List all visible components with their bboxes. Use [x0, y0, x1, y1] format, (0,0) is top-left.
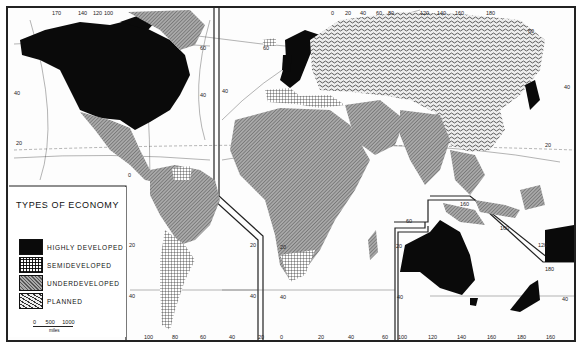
- lon-label: 180: [486, 10, 495, 16]
- lat-label: 20: [250, 242, 256, 248]
- lon-label: 120: [420, 10, 429, 16]
- legend-item-semideveloped: SEMIDEVELOPED: [19, 257, 112, 273]
- lon-label: 120: [93, 10, 102, 16]
- australia: [400, 220, 475, 295]
- lon-label: 120: [428, 334, 437, 340]
- lon-label: 20: [318, 334, 324, 340]
- lon-label: 140: [78, 10, 87, 16]
- lon-label: 140: [437, 10, 446, 16]
- lon-label: 100: [104, 10, 113, 16]
- lat-label: 20: [545, 142, 551, 148]
- lon-label: 60: [376, 10, 382, 16]
- lat-label: 40: [200, 92, 206, 98]
- lat-label: 20: [129, 242, 135, 248]
- lat-label: 40: [129, 293, 135, 299]
- lon-label: 170: [52, 10, 61, 16]
- underdeveloped-swatch: [19, 275, 43, 291]
- north-america: [20, 20, 190, 130]
- lat-label: 60: [263, 45, 269, 51]
- lon-label: 160: [487, 334, 496, 340]
- lon-label: 20: [258, 334, 264, 340]
- lat-label: 20: [396, 243, 402, 249]
- lon-label: 160: [546, 334, 555, 340]
- lon-label: 160: [455, 10, 464, 16]
- lat-label: 60: [528, 28, 534, 34]
- madagascar: [368, 230, 378, 260]
- legend: TYPES OF ECONOMY HIGHLY DEVELOPED SEMIDE…: [9, 187, 126, 337]
- south-asia: [400, 110, 450, 185]
- lat-label: 40: [564, 84, 570, 90]
- lon-label: 160: [460, 201, 469, 207]
- lon-label: 120: [538, 242, 547, 248]
- south-africa: [280, 250, 315, 282]
- scale-bar: 0 500 1000: [33, 319, 75, 327]
- lon-label: 60: [382, 334, 388, 340]
- lon-label: 160: [500, 225, 509, 231]
- lat-label: 20: [280, 244, 286, 250]
- venezuela: [172, 166, 192, 180]
- lon-label: 180: [545, 266, 554, 272]
- lat-label: 40: [222, 88, 228, 94]
- tasmania: [470, 298, 478, 306]
- legend-title: TYPES OF ECONOMY: [9, 200, 126, 210]
- lon-label: 40: [229, 334, 235, 340]
- south-america-south: [160, 230, 195, 330]
- lon-label: 100: [398, 334, 407, 340]
- lon-label: 0: [331, 10, 334, 16]
- lat-label: 40: [14, 90, 20, 96]
- highly-developed-swatch: [19, 239, 43, 255]
- planned-swatch: [19, 293, 43, 309]
- lon-label: 60: [200, 334, 206, 340]
- lat-label: 60: [200, 45, 206, 51]
- lon-label: 180: [517, 334, 526, 340]
- lon-label: 80: [172, 334, 178, 340]
- legend-item-highly-developed: HIGHLY DEVELOPED: [19, 239, 123, 255]
- lat-label: 40: [280, 294, 286, 300]
- lat-label: 40: [250, 293, 256, 299]
- ussr: [310, 12, 545, 120]
- southeast-asia: [450, 150, 485, 195]
- se-asia-corner: [545, 225, 574, 262]
- lon-label: 20: [345, 10, 351, 16]
- lon-label: 40: [360, 10, 366, 16]
- lon-label: 60: [406, 218, 412, 224]
- scale-unit: miles: [49, 328, 60, 333]
- japan: [525, 80, 540, 110]
- scale-line: [33, 326, 73, 327]
- lon-label: 40: [348, 334, 354, 340]
- southern-europe: [265, 88, 345, 108]
- lat-label: 20: [16, 140, 22, 146]
- lat-label: 0: [128, 172, 131, 178]
- lat-label: 40: [397, 294, 403, 300]
- legend-item-underdeveloped: UNDERDEVELOPED: [19, 275, 120, 291]
- indonesia: [475, 185, 545, 218]
- legend-item-planned: PLANNED: [19, 293, 83, 309]
- lon-label: 0: [280, 334, 283, 340]
- lon-label: 100: [144, 334, 153, 340]
- lon-label: 80: [388, 10, 394, 16]
- lon-label: 140: [457, 334, 466, 340]
- lat-label: 40: [562, 296, 568, 302]
- semideveloped-swatch: [19, 257, 43, 273]
